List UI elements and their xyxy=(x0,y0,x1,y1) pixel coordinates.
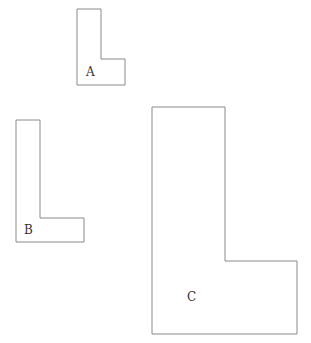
shape-c-label: C xyxy=(187,290,196,304)
shape-c: C xyxy=(152,107,297,334)
shape-a: A xyxy=(77,9,125,85)
l-shape-a-outline xyxy=(77,9,125,85)
shape-a-label: A xyxy=(85,65,95,79)
shape-b-label: B xyxy=(24,223,33,237)
shape-b: B xyxy=(16,120,84,242)
l-shape-c-outline xyxy=(152,107,297,334)
diagram-canvas: A B C xyxy=(0,0,311,343)
